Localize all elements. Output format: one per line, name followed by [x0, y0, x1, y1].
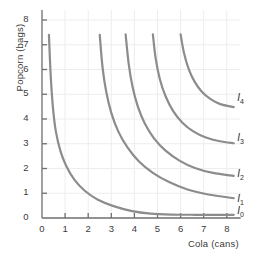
curve-label-text: I3 — [237, 132, 244, 143]
curve-label-i0: I0 — [237, 205, 244, 218]
y-tick-label: 3 — [18, 137, 34, 148]
y-tick-label: 4 — [18, 112, 34, 123]
y-tick-label: 5 — [18, 87, 34, 98]
y-tick-label: 7 — [18, 38, 34, 49]
curve-label-subscript: 2 — [240, 174, 244, 181]
y-tick-label: 6 — [18, 63, 34, 74]
y-tick-label: 2 — [18, 162, 34, 173]
curve-label-text: I2 — [237, 168, 244, 179]
curve-label-text: I0 — [237, 205, 244, 216]
indifference-curve-chart: Popcorn (bags) Cola (cans) 012345678 012… — [0, 0, 270, 254]
y-tick-label: 0 — [18, 211, 34, 222]
curve-label-i3: I3 — [237, 132, 244, 145]
y-tick-label: 1 — [18, 186, 34, 197]
x-tick-label: 5 — [148, 223, 168, 234]
curve-label-subscript: 3 — [240, 138, 244, 145]
curve-label-i4: I4 — [237, 92, 244, 105]
curve-label-i1: I1 — [237, 193, 244, 206]
curve-label-text: I4 — [237, 92, 244, 103]
x-tick-label: 4 — [124, 223, 144, 234]
curve-label-subscript: 4 — [240, 98, 244, 105]
x-tick-label: 7 — [194, 223, 214, 234]
x-tick-label: 3 — [101, 223, 121, 234]
y-tick-label: 8 — [18, 13, 34, 24]
curve-label-text: I1 — [237, 193, 244, 204]
plot-area — [0, 0, 270, 254]
curve-label-subscript: 0 — [240, 211, 244, 218]
x-tick-label: 1 — [55, 223, 75, 234]
x-tick-label: 0 — [32, 223, 52, 234]
x-tick-label: 8 — [217, 223, 237, 234]
curve-label-i2: I2 — [237, 168, 244, 181]
x-axis-title: Cola (cans) — [188, 238, 239, 249]
x-tick-label: 6 — [171, 223, 191, 234]
curve-label-subscript: 1 — [240, 199, 244, 206]
curve-series — [49, 34, 234, 214]
x-tick-label: 2 — [78, 223, 98, 234]
